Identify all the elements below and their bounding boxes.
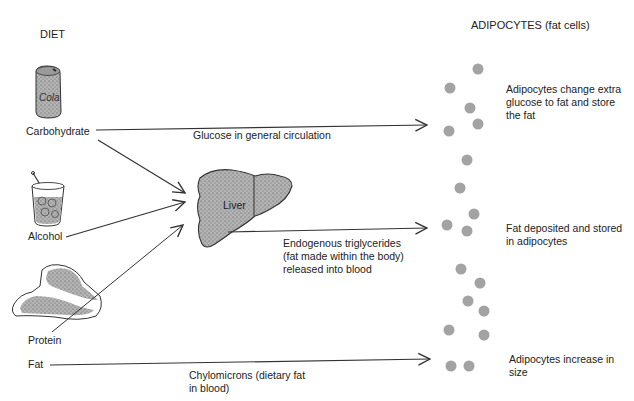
adipocyte-chylomicron-group bbox=[444, 264, 490, 372]
adipocyte-cell bbox=[442, 220, 453, 231]
alcohol-glass-icon bbox=[32, 172, 65, 227]
adipocyte-cell bbox=[469, 209, 480, 220]
steak-icon bbox=[12, 265, 101, 320]
adipocyte-cell bbox=[444, 325, 455, 336]
adipocyte-cell bbox=[464, 361, 475, 372]
liver-icon: Liver bbox=[198, 170, 293, 247]
adipocyte-cell bbox=[445, 83, 456, 94]
adipocyte-cell bbox=[462, 155, 473, 166]
diet-header: DIET bbox=[40, 28, 65, 41]
fat-label: Fat bbox=[28, 358, 43, 371]
diagram-canvas: Cola Liver bbox=[0, 0, 634, 401]
carbohydrate-to-liver-arrow bbox=[98, 140, 185, 193]
adipocyte-triglyceride-group bbox=[442, 155, 480, 237]
adipocyte-cell bbox=[473, 64, 484, 75]
liver-label: Liver bbox=[223, 199, 246, 211]
diet-fat-metabolism-diagram: Cola Liver bbox=[0, 0, 634, 401]
protein-label: Protein bbox=[28, 334, 61, 347]
alcohol-label: Alcohol bbox=[28, 230, 62, 243]
alcohol-to-liver-arrow bbox=[66, 202, 185, 237]
adipocyte-cell bbox=[475, 278, 486, 289]
glucose-outcome-label: Adipocytes change extra glucose to fat a… bbox=[506, 83, 621, 122]
adipocyte-cell bbox=[465, 103, 476, 114]
triglyceride-outcome-label: Fat deposited and stored in adipocytes bbox=[506, 222, 622, 248]
triglyceride-arrow bbox=[228, 228, 427, 232]
can-label: Cola bbox=[39, 92, 60, 103]
chylomicron-outcome-label: Adipocytes increase in size bbox=[509, 353, 614, 379]
chylomicron-label: Chylomicrons (dietary fat in blood) bbox=[189, 369, 305, 395]
adipocyte-glucose-group bbox=[444, 64, 484, 137]
adipocyte-cell bbox=[462, 226, 473, 237]
adipocyte-cell bbox=[444, 126, 455, 137]
adipocytes-header: ADIPOCYTES (fat cells) bbox=[471, 19, 590, 32]
endogenous-triglyceride-label: Endogenous triglycerides (fat made withi… bbox=[283, 237, 404, 276]
adipocyte-cell bbox=[446, 361, 457, 372]
adipocyte-cell bbox=[456, 264, 467, 275]
adipocyte-cell bbox=[463, 296, 474, 307]
adipocyte-cell bbox=[455, 183, 466, 194]
chylomicron-arrow bbox=[50, 359, 430, 365]
adipocyte-cell bbox=[479, 330, 490, 341]
cola-can-icon: Cola bbox=[36, 66, 61, 118]
adipocyte-cluster bbox=[442, 64, 490, 372]
carbohydrate-label: Carbohydrate bbox=[26, 125, 90, 138]
glucose-pathway-label: Glucose in general circulation bbox=[193, 129, 331, 142]
adipocyte-cell bbox=[473, 119, 484, 130]
adipocyte-cell bbox=[479, 306, 490, 317]
